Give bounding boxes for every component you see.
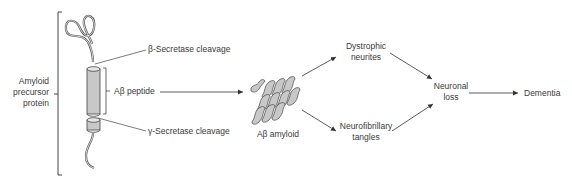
- dystrophic-neurites-label: Dystrophic neurites: [336, 41, 396, 63]
- arrow-dystrophic-to-loss: [390, 53, 432, 79]
- dystrophic-line: Dystrophic: [336, 41, 396, 52]
- nft-line: tangles: [332, 132, 400, 143]
- neuronal-loss-label: Neuronal loss: [429, 81, 473, 103]
- dystrophic-line: neurites: [336, 52, 396, 63]
- gamma-cleavage-label: γ-Secretase cleavage: [148, 126, 230, 137]
- app-label-line: protein: [4, 98, 49, 109]
- app-label-line: precursor: [4, 87, 49, 98]
- peptide-bracket: [103, 68, 106, 114]
- neuronal-loss-line: Neuronal: [429, 81, 473, 92]
- arrow-amyloid-to-nft: [302, 110, 336, 131]
- abeta-peptide-label: Aβ peptide: [114, 86, 155, 97]
- nft-line: Neurofibrillary: [332, 121, 400, 132]
- abeta-cylinder-icon: [87, 67, 100, 117]
- c-terminal-cylinder-icon: [87, 118, 100, 133]
- gamma-pointer: [98, 118, 146, 131]
- neuronal-loss-line: loss: [429, 92, 473, 103]
- diagram-canvas: [0, 0, 572, 183]
- app-tail-icon: [86, 132, 94, 168]
- dementia-label: Dementia: [524, 88, 560, 99]
- app-label: Amyloid precursor protein: [4, 76, 49, 109]
- abeta-amyloid-label: Aβ amyloid: [248, 129, 308, 140]
- amyloid-aggregate-icon: [251, 77, 300, 125]
- neurofibrillary-tangles-label: Neurofibrillary tangles: [332, 121, 400, 143]
- beta-pointer: [95, 50, 146, 64]
- beta-cleavage-label: β-Secretase cleavage: [148, 44, 230, 55]
- arrow-amyloid-to-dystrophic: [302, 57, 336, 76]
- app-label-line: Amyloid: [4, 76, 49, 87]
- app-bracket: [54, 12, 62, 175]
